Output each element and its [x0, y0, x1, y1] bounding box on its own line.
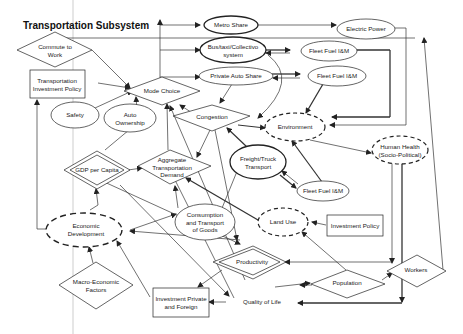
label-line: Demand: [160, 171, 183, 178]
label-line: Freight/Truck: [240, 155, 276, 162]
bus-taxi-collectivo-label: Bus/taxi/Collectivo system: [208, 43, 259, 58]
label-line: Consumption: [187, 211, 223, 218]
commute-to-work-label: Commute to Work: [38, 43, 72, 58]
economic-development-label: Economic Development: [68, 222, 104, 237]
diagram-title: Transportation Subsystem: [23, 20, 149, 31]
investment-private-foreign-label: Investment Private and Foreign: [155, 295, 206, 310]
label-line: Ownership: [115, 118, 145, 125]
label-line: Work: [48, 50, 62, 57]
transportation-subsystem-diagram: Transportation Subsystem Commute to Work…: [0, 0, 463, 334]
fleet-fuel-im-1-label: Fleet Fuel I&M: [309, 47, 349, 55]
label-line: Development: [68, 229, 104, 236]
macro-economic-factors-label: Macro-Economic Factors: [73, 278, 119, 293]
productivity-label: Productivity: [236, 258, 268, 266]
label-line: of Goods: [192, 226, 217, 233]
mode-choice-label: Mode Choice: [144, 87, 180, 95]
gdp-per-capita-label: GDP per Capita: [75, 166, 119, 174]
label-line: Auto: [124, 111, 137, 118]
aggregate-transportation-demand-label: Aggregate Transportation Demand: [152, 156, 192, 179]
transportation-investment-policy-label: Transportation Investment Policy: [33, 77, 82, 92]
label-line: Human Health: [380, 143, 420, 150]
fleet-fuel-im-2-label: Fleet Fuel I&M: [317, 72, 357, 80]
label-line: Economic: [72, 222, 99, 229]
human-health-label: Human Health (Socio-Political): [379, 143, 422, 158]
fleet-fuel-im-3-label: Fleet Fuel I&M: [303, 187, 343, 195]
label-line: and Transport: [186, 218, 224, 225]
label-line: and Foreign: [164, 302, 197, 309]
label-line: (Socio-Political): [379, 150, 422, 157]
land-use-label: Land Use: [270, 218, 297, 226]
label-line: Transport: [245, 162, 271, 169]
label-line: Bus/taxi/Collectivo: [208, 43, 259, 50]
population-label: Population: [332, 279, 361, 287]
label-line: Transportation: [37, 77, 77, 84]
safety-label: Safety: [66, 111, 84, 119]
consumption-transport-goods-label: Consumption and Transport of Goods: [186, 211, 224, 234]
electric-power-label: Electric Power: [346, 25, 386, 33]
label-line: Macro-Economic: [73, 278, 119, 285]
freight-truck-transport-label: Freight/Truck Transport: [240, 155, 276, 170]
workers-label: Workers: [405, 266, 428, 274]
label-line: system: [223, 50, 243, 57]
label-line: Factors: [86, 285, 107, 292]
private-auto-share-label: Private Auto Share: [210, 72, 262, 80]
label-line: Investment Private: [155, 295, 206, 302]
label-line: Investment Policy: [33, 84, 82, 91]
quality-of-life-label: Quality of Life: [243, 298, 281, 306]
metro-share-label: Metro Share: [214, 21, 248, 29]
environment-label: Environment: [278, 123, 313, 131]
auto-ownership-label: Auto Ownership: [115, 111, 145, 126]
label-line: Aggregate: [158, 156, 187, 163]
investment-policy-label: Investment Policy: [331, 222, 380, 230]
label-line: Transportation: [152, 163, 192, 170]
congestion-label: Congestion: [196, 113, 227, 121]
label-line: Commute to: [38, 43, 72, 50]
